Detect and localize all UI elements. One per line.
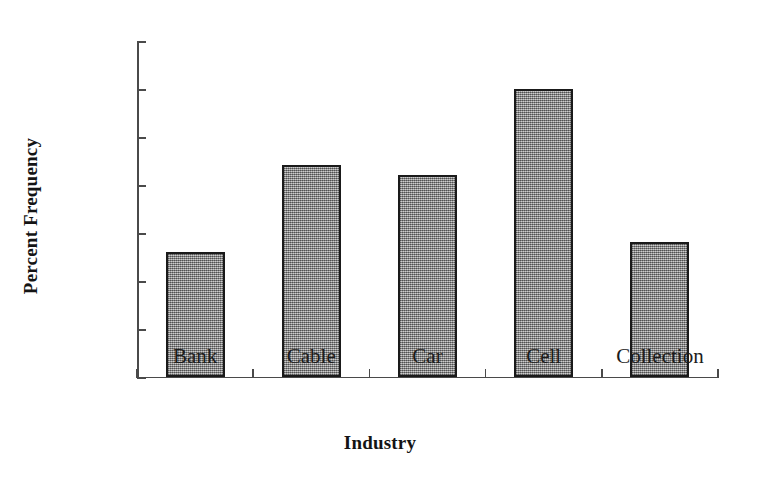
y-axis-tick	[137, 41, 146, 43]
x-axis-title: Industry	[0, 432, 760, 454]
x-axis-line	[137, 377, 718, 379]
y-axis-title: Percent Frequency	[20, 101, 42, 331]
x-axis-tick	[485, 369, 487, 378]
x-axis-tick	[601, 369, 603, 378]
y-axis-tick	[137, 137, 146, 139]
bar-cell	[514, 89, 573, 377]
plot-area: 0%5%10%15%20%25%30%35%	[137, 42, 718, 378]
y-axis-tick	[137, 329, 146, 331]
y-axis-tick	[137, 185, 146, 187]
y-axis-tick	[137, 233, 146, 235]
x-axis-tick	[252, 369, 254, 378]
y-axis-tick	[137, 377, 146, 379]
x-axis-label-collection: Collection	[560, 346, 760, 367]
x-axis-tick	[369, 369, 371, 378]
x-axis-tick	[136, 369, 138, 378]
y-axis-line	[137, 42, 139, 378]
y-axis-tick	[137, 89, 146, 91]
x-axis-tick	[717, 369, 719, 378]
bar-chart-figure: Percent Frequency 0%5%10%15%20%25%30%35%…	[0, 0, 760, 482]
y-axis-tick	[137, 281, 146, 283]
